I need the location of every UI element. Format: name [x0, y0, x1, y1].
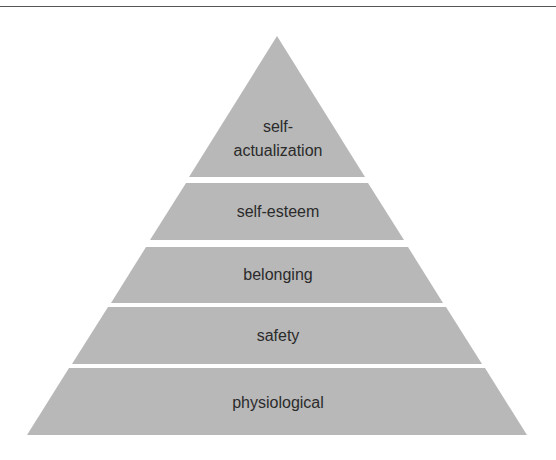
label-self-esteem: self-esteem — [0, 202, 556, 222]
label-safety: safety — [0, 326, 556, 346]
label-physiological: physiological — [0, 393, 556, 413]
label-self-actualization-line2: actualization — [0, 141, 556, 161]
pyramid-diagram — [0, 0, 556, 460]
label-self-actualization-line1: self- — [0, 117, 556, 137]
label-belonging: belonging — [0, 265, 556, 285]
